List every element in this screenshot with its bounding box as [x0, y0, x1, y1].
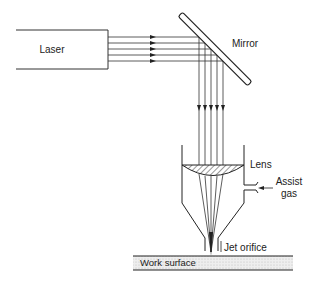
- focused-beams: [199, 174, 223, 256]
- assist-gas-inlet: Assist gas: [258, 176, 303, 199]
- nozzle: [182, 145, 258, 251]
- down-arrow-icons: [197, 105, 225, 111]
- lens-label: Lens: [250, 159, 272, 170]
- jet-orifice: Jet orifice: [221, 241, 267, 253]
- work-surface: Work surface: [133, 256, 293, 270]
- laser-source: Laser: [16, 30, 108, 69]
- laser-label: Laser: [39, 44, 65, 55]
- assist-gas-label-line2: gas: [281, 188, 297, 199]
- lens: Lens: [182, 159, 272, 176]
- jet-orifice-label: Jet orifice: [224, 242, 267, 253]
- mirror-label: Mirror: [232, 38, 259, 49]
- beam-arrow-icons: [150, 35, 156, 63]
- laser-cutting-diagram: Laser Mirror: [0, 0, 310, 286]
- work-surface-label: Work surface: [140, 257, 196, 268]
- assist-gas-label-line1: Assist: [276, 176, 303, 187]
